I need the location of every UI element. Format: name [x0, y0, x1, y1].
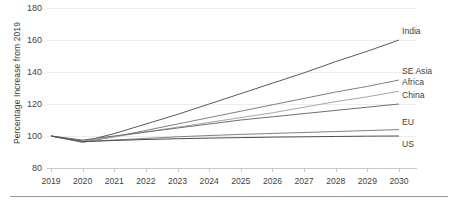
bottom-divider — [10, 196, 448, 197]
series-label-china: China — [402, 90, 424, 100]
x-axis-tick — [114, 168, 115, 172]
y-axis-title: Percentage Increase from 2019 — [12, 8, 22, 158]
line-chart: Percentage Increase from 2019 8010012014… — [0, 0, 458, 211]
series-line — [51, 40, 399, 142]
series-label-india: India — [402, 26, 421, 36]
x-axis-tick-label: 2020 — [73, 176, 92, 186]
y-axis-tick-label: 80 — [32, 164, 42, 173]
x-axis-tick — [399, 168, 400, 172]
x-axis-tick — [51, 168, 52, 172]
y-axis-tick-label: 160 — [27, 36, 42, 45]
x-axis-tick — [146, 168, 147, 172]
x-axis-tick-label: 2024 — [200, 176, 219, 186]
x-axis-tick — [241, 168, 242, 172]
x-axis-line — [47, 168, 417, 169]
series-label-us: US — [402, 139, 414, 149]
x-axis-tick-label: 2021 — [105, 176, 124, 186]
y-axis-tick-label: 140 — [27, 68, 42, 77]
series-line — [51, 130, 399, 142]
x-axis-tick — [83, 168, 84, 172]
x-axis-tick-label: 2019 — [41, 176, 60, 186]
plot-area: 80100120140160180 2019202020212022202320… — [47, 8, 417, 168]
x-axis-tick — [336, 168, 337, 172]
x-axis-tick-label: 2030 — [389, 176, 408, 186]
x-axis-tick — [178, 168, 179, 172]
x-axis-tick-label: 2022 — [136, 176, 155, 186]
x-axis-tick — [209, 168, 210, 172]
y-axis-tick-label: 180 — [27, 4, 42, 13]
series-label-se-asia: SE Asia — [402, 66, 432, 76]
x-axis-tick-label: 2025 — [231, 176, 250, 186]
x-axis-tick — [304, 168, 305, 172]
x-axis-tick-label: 2029 — [358, 176, 377, 186]
y-axis-tick-label: 100 — [27, 132, 42, 141]
series-lines — [47, 8, 417, 168]
x-axis-tick-label: 2026 — [263, 176, 282, 186]
x-axis-tick-label: 2023 — [168, 176, 187, 186]
y-axis-tick-label: 120 — [27, 100, 42, 109]
x-axis-tick — [367, 168, 368, 172]
series-label-africa: Africa — [402, 77, 424, 87]
x-axis-tick-label: 2028 — [326, 176, 345, 186]
series-label-eu: EU — [402, 117, 414, 127]
x-axis-tick-label: 2027 — [295, 176, 314, 186]
x-axis-tick — [272, 168, 273, 172]
series-line — [51, 80, 399, 142]
